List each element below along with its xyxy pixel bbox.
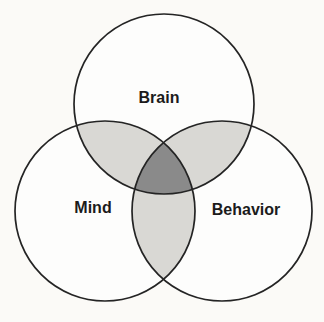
mind-label: Mind [74, 199, 111, 216]
brain-label: Brain [139, 89, 180, 106]
venn-diagram: Brain Mind Behavior [0, 0, 324, 322]
scanned-page: Brain Mind Behavior [0, 0, 324, 322]
behavior-label: Behavior [212, 201, 280, 218]
